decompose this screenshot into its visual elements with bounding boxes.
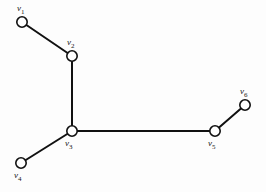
vertex-label-v5: v5 — [208, 139, 216, 151]
vertex-label-subscript-v6: 6 — [244, 91, 248, 99]
vertex-label-subscript-v3: 3 — [69, 143, 73, 151]
vertex-label-v1: v1 — [17, 4, 25, 16]
vertex-label-subscript-v1: 1 — [21, 8, 25, 16]
graph-node-v2 — [67, 51, 77, 61]
vertex-label-subscript-v5: 5 — [212, 143, 216, 151]
vertex-label-v6: v6 — [240, 87, 248, 99]
vertex-label-subscript-v4: 4 — [18, 175, 22, 183]
graph-canvas — [0, 0, 266, 192]
graph-node-v1 — [17, 17, 27, 27]
vertex-label-v4: v4 — [14, 171, 22, 183]
graph-node-v5 — [210, 126, 220, 136]
graph-node-v6 — [240, 100, 250, 110]
vertex-label-v2: v2 — [67, 38, 75, 50]
graph-edge-v1-v2 — [22, 22, 72, 56]
graph-node-v4 — [16, 158, 26, 168]
vertex-label-subscript-v2: 2 — [71, 42, 75, 50]
vertex-label-v3: v3 — [65, 139, 73, 151]
graph-figure: v1v2v3v4v5v6 — [0, 0, 266, 192]
graph-node-v3 — [67, 126, 77, 136]
